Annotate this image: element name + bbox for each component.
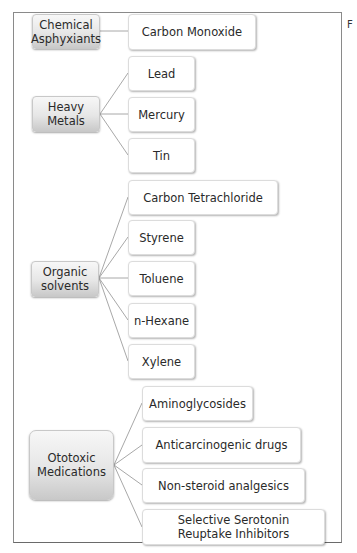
item-ssri: Selective Serotonin Reuptake Inhibitors — [142, 509, 325, 545]
connector-ototoxic-aminoglycosides — [114, 403, 142, 465]
connector-solvents-xylene — [99, 278, 128, 361]
connector-metals-tin — [100, 114, 128, 155]
category-heavy-metals: HeavyMetals — [32, 96, 100, 132]
connector-metals-lead — [100, 73, 128, 114]
item-non-steroid-analgesics: Non-steroid analgesics — [142, 468, 305, 503]
category-label-line1: Chemical — [39, 18, 92, 32]
connector-solvents-styrene — [99, 237, 128, 278]
item-styrene: Styrene — [128, 220, 195, 255]
connector-solvents-n-hexane — [99, 278, 128, 320]
item-n-hexane: n-Hexane — [128, 303, 195, 338]
category-label-line1: Heavy — [48, 100, 84, 114]
category-ototoxic-medications: OtotoxicMedications — [29, 430, 114, 500]
category-label-line2: Metals — [47, 114, 85, 128]
item-mercury: Mercury — [128, 97, 195, 132]
item-tin: Tin — [128, 138, 195, 173]
item-anticarcinogenic-drugs: Anticarcinogenic drugs — [142, 427, 301, 463]
category-organic-solvents: Organicsolvents — [31, 261, 99, 297]
category-label-line1: Organic — [43, 265, 88, 279]
connector-solvents-carbon-tetrachloride — [99, 197, 128, 278]
item-aminoglycosides: Aminoglycosides — [142, 386, 253, 421]
item-xylene: Xylene — [128, 344, 195, 379]
item-carbon-tetrachloride: Carbon Tetrachloride — [128, 180, 278, 215]
connector-ototoxic-ssri — [114, 465, 142, 527]
category-label-line2: Asphyxiants — [31, 32, 101, 46]
category-label-line2: Medications — [37, 465, 106, 479]
category-chemical-asphyxiants: ChemicalAsphyxiants — [32, 14, 100, 49]
item-toluene: Toluene — [128, 261, 195, 296]
item-lead: Lead — [128, 56, 195, 91]
category-label-line2: solvents — [41, 279, 89, 293]
item-carbon-monoxide: Carbon Monoxide — [128, 14, 256, 50]
category-label-line1: Ototoxic — [47, 451, 95, 465]
